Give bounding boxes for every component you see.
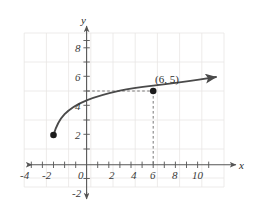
x-tick-label-8: 8 [172,170,178,181]
marked-point-dot [150,88,157,95]
x-tick-label-2: 2 [109,170,115,181]
x-tick-label--4: -4 [20,170,29,181]
y-axis-label: y [81,15,86,26]
y-tick-label-4: 4 [75,101,81,112]
y-tick-label-8: 8 [75,43,81,54]
y-tick-label--2: -2 [72,188,81,199]
graph-figure: -4 -2 0 2 4 6 8 10 8 6 4 2 -2 x y (6, 5) [0,0,264,218]
x-axis-label: x [239,160,244,171]
x-tick-label-0: 0 [78,170,84,181]
x-tick-label-4: 4 [131,170,137,181]
x-tick-label-6: 6 [150,170,156,181]
endpoint-dot [50,132,57,139]
x-tick-label-10: 10 [192,170,203,181]
x-tick-label--2: -2 [42,170,51,181]
grid-lines [24,33,224,187]
point-annotation-6-5: (6, 5) [155,74,179,85]
y-tick-label-2: 2 [75,130,81,141]
y-tick-label-6: 6 [75,72,81,83]
plot-canvas [0,0,264,218]
guide-lines [87,91,153,165]
